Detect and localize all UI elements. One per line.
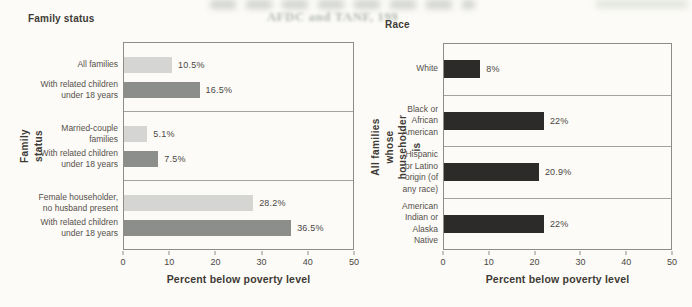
family-status-chart: Family status Family status All families… bbox=[0, 0, 346, 307]
bar bbox=[124, 195, 253, 211]
bar-row: Married-couple families5.1% bbox=[124, 126, 353, 142]
chart-title: Family status bbox=[28, 13, 95, 24]
x-tick-label: 20 bbox=[210, 257, 220, 267]
bar bbox=[124, 220, 291, 236]
x-tick-mark bbox=[580, 251, 581, 255]
value-label: 10.5% bbox=[178, 60, 205, 70]
x-tick-mark bbox=[672, 251, 673, 255]
bar-row: With related children under 18 years7.5% bbox=[124, 151, 353, 167]
value-label: 20.9% bbox=[545, 167, 572, 177]
x-tick-mark bbox=[215, 251, 216, 255]
value-label: 36.5% bbox=[297, 223, 324, 233]
chart-title: Race bbox=[385, 19, 410, 30]
x-tick-mark bbox=[123, 251, 124, 255]
category-label: Female householder, no husband present bbox=[8, 191, 118, 214]
category-label: Married-couple families bbox=[8, 122, 118, 145]
x-tick-label: 0 bbox=[440, 257, 445, 267]
bar bbox=[444, 163, 539, 181]
bar bbox=[444, 60, 480, 78]
bar-row: White8% bbox=[444, 60, 671, 78]
x-axis-title: Percent below poverty level bbox=[123, 273, 354, 285]
category-label: White bbox=[378, 64, 438, 75]
bar-row: Female householder, no husband present28… bbox=[124, 195, 353, 211]
x-tick-mark bbox=[626, 251, 627, 255]
bar-row: With related children under 18 years36.5… bbox=[124, 220, 353, 236]
plot-area: White8%Black or African American22%Hispa… bbox=[443, 43, 672, 250]
x-tick-label: 50 bbox=[667, 257, 677, 267]
bar-group: All families10.5%With related children u… bbox=[124, 43, 353, 111]
x-tick-label: 0 bbox=[120, 257, 125, 267]
category-label: All families bbox=[8, 59, 118, 70]
category-label: Hispanic or Latino origin (of any race) bbox=[378, 149, 438, 195]
bar bbox=[124, 126, 147, 142]
x-axis-title: Percent below poverty level bbox=[443, 273, 672, 285]
bar-row: All families10.5% bbox=[124, 57, 353, 73]
bar-group: Black or African American22% bbox=[444, 95, 671, 147]
x-axis: Percent below poverty level 01020304050 bbox=[443, 251, 672, 295]
bar-row: Black or African American22% bbox=[444, 112, 671, 130]
race-chart: Race All families whose householder is W… bbox=[346, 0, 692, 307]
x-tick-label: 40 bbox=[303, 257, 313, 267]
category-label: With related children under 18 years bbox=[8, 216, 118, 239]
x-tick-mark bbox=[169, 251, 170, 255]
value-label: 16.5% bbox=[206, 85, 233, 95]
bar bbox=[444, 215, 544, 233]
plot-area: All families10.5%With related children u… bbox=[123, 42, 354, 250]
bar-row: Hispanic or Latino origin (of any race)2… bbox=[444, 163, 671, 181]
bar bbox=[444, 112, 544, 130]
x-tick-label: 10 bbox=[484, 257, 494, 267]
x-tick-mark bbox=[488, 251, 489, 255]
x-tick-label: 30 bbox=[257, 257, 267, 267]
value-label: 28.2% bbox=[259, 198, 286, 208]
bar-group: White8% bbox=[444, 44, 671, 95]
bar-row: With related children under 18 years16.5… bbox=[124, 82, 353, 98]
bar-group: Female householder, no husband present28… bbox=[124, 180, 353, 249]
category-label: Black or African American bbox=[378, 104, 438, 138]
category-label: American Indian or Alaska Native bbox=[378, 201, 438, 247]
x-tick-label: 10 bbox=[164, 257, 174, 267]
value-label: 5.1% bbox=[153, 129, 174, 139]
x-tick-mark bbox=[443, 251, 444, 255]
x-tick-mark bbox=[261, 251, 262, 255]
category-label: With related children under 18 years bbox=[8, 147, 118, 170]
bar bbox=[124, 57, 172, 73]
x-tick-mark bbox=[307, 251, 308, 255]
value-label: 8% bbox=[486, 64, 499, 74]
bar-group: American Indian or Alaska Native22% bbox=[444, 198, 671, 250]
x-tick-label: 30 bbox=[575, 257, 585, 267]
value-label: 22% bbox=[550, 116, 569, 126]
category-label: With related children under 18 years bbox=[8, 78, 118, 101]
bar-group: Married-couple families5.1%With related … bbox=[124, 111, 353, 180]
scanned-page: AFDC and TANF, 199 Family status Family … bbox=[0, 0, 692, 307]
value-label: 7.5% bbox=[164, 154, 185, 164]
x-tick-label: 20 bbox=[530, 257, 540, 267]
value-label: 22% bbox=[550, 219, 569, 229]
bar-group: Hispanic or Latino origin (of any race)2… bbox=[444, 146, 671, 198]
x-tick-label: 40 bbox=[621, 257, 631, 267]
bar bbox=[124, 82, 200, 98]
x-axis: Percent below poverty level 01020304050 bbox=[123, 251, 354, 295]
x-tick-mark bbox=[534, 251, 535, 255]
bar bbox=[124, 151, 158, 167]
bar-row: American Indian or Alaska Native22% bbox=[444, 215, 671, 233]
